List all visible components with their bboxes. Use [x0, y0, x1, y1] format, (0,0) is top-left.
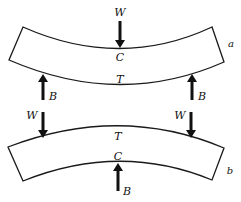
support-label-b-b: B: [122, 185, 131, 198]
support-arrow-b-left-a: [38, 74, 48, 100]
beam-bending-diagram: W C T B B a W: [0, 0, 241, 202]
diagram-canvas: W C T B B a W: [0, 0, 241, 202]
load-label-w-left-b: W: [26, 109, 39, 122]
support-arrow-b-b: [113, 163, 123, 191]
compression-label-b: C: [114, 150, 123, 163]
beam-tag-b: b: [227, 165, 233, 176]
compression-label-a: C: [116, 51, 125, 64]
load-label-w-a: W: [114, 6, 127, 19]
load-arrow-w-a: [115, 21, 125, 48]
beam-a-group: W C T B B a: [9, 6, 234, 103]
load-label-w-right-b: W: [174, 109, 187, 122]
beam-b-group: W W T C B b: [8, 109, 233, 198]
support-arrow-b-right-a: [187, 74, 197, 100]
support-label-b-right-a: B: [197, 90, 206, 103]
beam-tag-a: a: [228, 38, 234, 49]
load-arrow-w-right-b: [186, 112, 196, 138]
support-label-b-left-a: B: [48, 90, 57, 103]
